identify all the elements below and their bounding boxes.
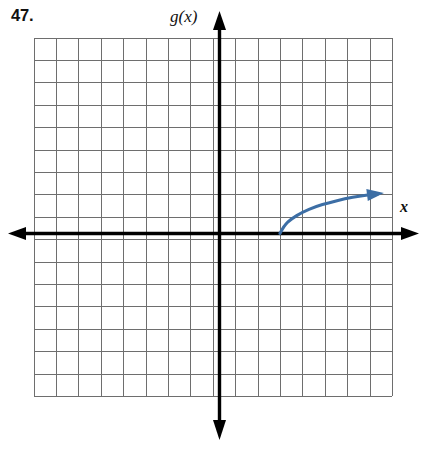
grid-lines xyxy=(34,38,393,397)
y-axis xyxy=(213,11,226,440)
x-axis-arrow-left-icon xyxy=(8,227,26,240)
coordinate-plane xyxy=(0,0,422,466)
figure-canvas: 47. g(x) x xyxy=(0,0,422,466)
curve-path xyxy=(280,194,379,234)
x-axis-arrow-right-icon xyxy=(401,227,419,240)
function-curve xyxy=(280,189,384,233)
y-axis-arrow-up-icon xyxy=(213,11,226,30)
y-axis-arrow-down-icon xyxy=(213,420,226,440)
